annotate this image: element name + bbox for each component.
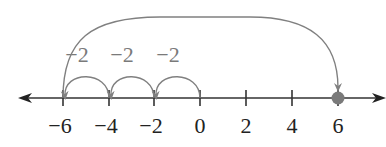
- tick-label: −2: [139, 113, 162, 138]
- tick-label: −4: [94, 113, 117, 138]
- tick-label: 0: [195, 113, 206, 138]
- hop-arc-neg2-to-neg4: [111, 77, 154, 98]
- highlighted-point: [332, 92, 345, 105]
- tick-labels: −6−4−20246: [48, 113, 343, 138]
- big-arc-neg6-to-6: [63, 17, 338, 98]
- hop-label: −2: [110, 42, 133, 67]
- hop-arc-neg4-to-neg6: [65, 77, 109, 98]
- tick-label: 4: [287, 113, 298, 138]
- number-line-diagram: −6−4−20246 −2 −2 −2: [0, 0, 386, 147]
- hop-label: −2: [156, 42, 179, 67]
- hop-arc-0-to-neg2: [156, 77, 200, 98]
- tick-label: 2: [241, 113, 252, 138]
- tick-label: −6: [48, 113, 71, 138]
- tick-label: 6: [333, 113, 344, 138]
- hop-label: −2: [65, 42, 88, 67]
- number-line-svg: −6−4−20246 −2 −2 −2: [0, 0, 386, 147]
